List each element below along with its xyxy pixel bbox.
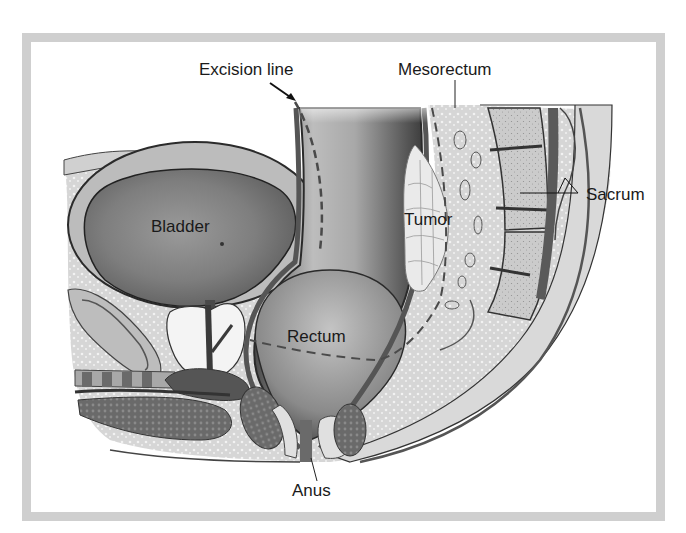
anatomy-diagram: Excision line Mesorectum Sacrum Bladder … xyxy=(0,0,686,533)
label-mesorectum: Mesorectum xyxy=(398,60,492,79)
label-rectum: Rectum xyxy=(287,327,346,346)
label-bladder: Bladder xyxy=(151,217,210,236)
label-tumor: Tumor xyxy=(404,210,453,229)
label-excision-line: Excision line xyxy=(199,60,294,79)
label-anus: Anus xyxy=(292,481,331,500)
label-sacrum: Sacrum xyxy=(586,185,645,204)
